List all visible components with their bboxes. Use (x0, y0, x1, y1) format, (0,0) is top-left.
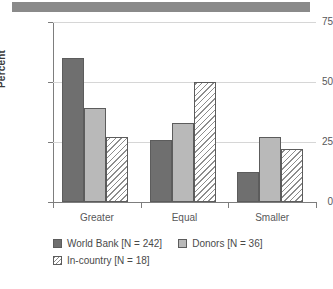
x-tick-label: Greater (53, 212, 141, 223)
x-axis-line (53, 202, 317, 203)
x-tick-mark (228, 202, 229, 208)
bar[interactable] (194, 82, 216, 202)
bar[interactable] (259, 137, 281, 202)
legend-item[interactable]: In-country [N = 18] (53, 255, 150, 266)
x-tick-label: Smaller (228, 212, 316, 223)
bar[interactable] (84, 108, 106, 202)
y-axis-title: Percent (0, 50, 7, 88)
bar[interactable] (150, 140, 172, 202)
legend-swatch-icon (53, 239, 62, 248)
bar[interactable] (281, 149, 303, 202)
x-tick-label: Equal (141, 212, 229, 223)
legend-item[interactable]: Donors [N = 36] (178, 238, 262, 249)
header-band (12, 2, 310, 12)
bar[interactable] (172, 123, 194, 202)
legend-label: In-country [N = 18] (67, 255, 150, 266)
x-tick-mark (53, 202, 54, 208)
legend-row: In-country [N = 18] (53, 253, 323, 268)
bar-group (237, 22, 303, 202)
bar[interactable] (62, 58, 84, 202)
legend-item[interactable]: World Bank [N = 242] (53, 238, 162, 249)
legend-row: World Bank [N = 242]Donors [N = 36] (53, 236, 323, 251)
legend-label: World Bank [N = 242] (67, 238, 162, 249)
bar[interactable] (106, 137, 128, 202)
bar-chart: Percent 0255075 GreaterEqualSmaller Worl… (0, 14, 333, 289)
bar[interactable] (237, 172, 259, 202)
bar-group (150, 22, 216, 202)
x-tick-mark (141, 202, 142, 208)
x-tick-mark (316, 202, 317, 208)
bar-group (62, 22, 128, 202)
legend-label: Donors [N = 36] (192, 238, 262, 249)
chart-legend: World Bank [N = 242]Donors [N = 36]In-co… (53, 236, 323, 270)
plot-area (53, 22, 316, 202)
legend-swatch-icon (53, 256, 62, 265)
legend-swatch-icon (178, 239, 187, 248)
